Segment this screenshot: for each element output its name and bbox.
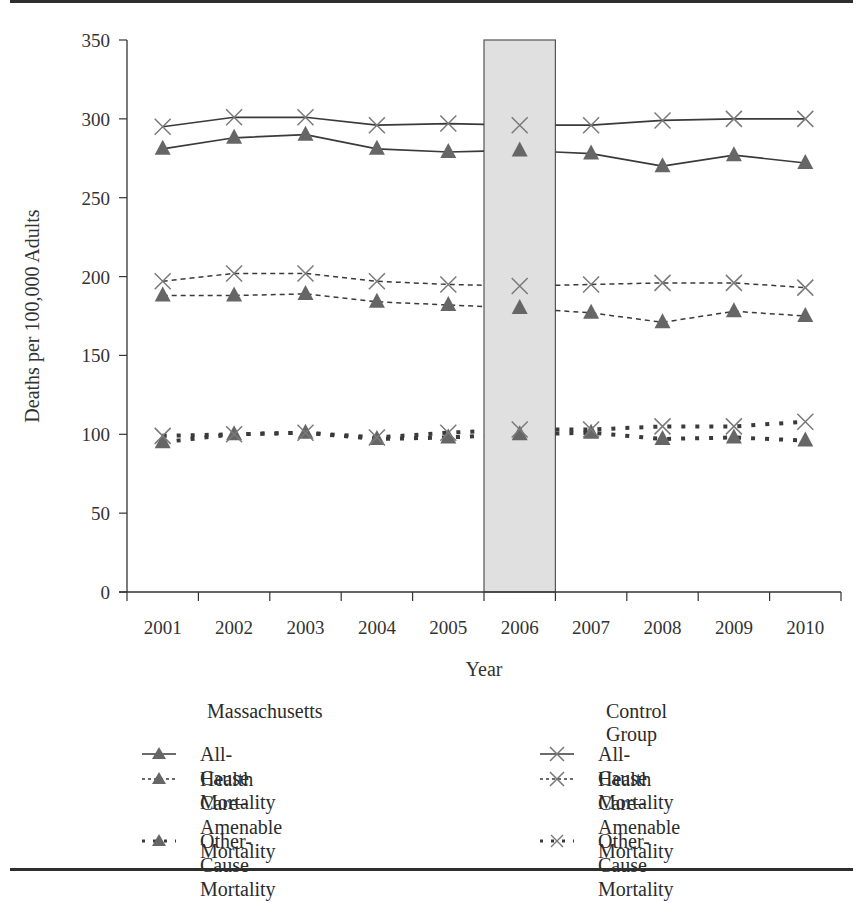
legend-label: Other-Cause Mortality xyxy=(598,829,674,901)
triangle-marker-icon xyxy=(152,747,166,759)
x-tick-label: 2008 xyxy=(644,617,682,638)
x-tick-label: 2005 xyxy=(429,617,467,638)
y-tick-label: 150 xyxy=(82,345,111,366)
legend-item-ma-other-cause: Other-Cause Mortality xyxy=(138,829,276,901)
y-tick-label: 250 xyxy=(82,188,111,209)
legend-swatch-solid-x xyxy=(536,742,598,766)
x-tick-label: 2006 xyxy=(501,617,539,638)
bottom-rule xyxy=(10,868,853,871)
series-line-control-group-dashed-seg0 xyxy=(163,273,484,285)
legend-swatch-solid-triangle xyxy=(138,742,200,766)
point-massachusetts-dashed-2003 xyxy=(298,285,314,300)
point-massachusetts-solid-2002 xyxy=(226,129,242,144)
point-massachusetts-dashed-2005 xyxy=(440,296,456,311)
point-massachusetts-dashed-2002 xyxy=(226,286,242,301)
x-tick-label: 2001 xyxy=(144,617,182,638)
point-massachusetts-dotted-2003 xyxy=(298,424,314,439)
x-axis-title: Year xyxy=(466,658,503,680)
x-tick-label: 2010 xyxy=(786,617,824,638)
point-massachusetts-dashed-2004 xyxy=(369,293,385,308)
triangle-marker-icon xyxy=(152,772,166,784)
point-massachusetts-dotted-2010 xyxy=(797,432,813,447)
x-tick-label: 2007 xyxy=(572,617,610,638)
point-massachusetts-dashed-2009 xyxy=(726,302,742,317)
y-tick-label: 200 xyxy=(82,267,111,288)
legend-group-title-massachusetts: Massachusetts xyxy=(207,700,323,723)
highlight-band-2006 xyxy=(484,40,555,592)
x-tick-label: 2003 xyxy=(287,617,325,638)
point-massachusetts-solid-2007 xyxy=(583,145,599,160)
legend-swatch-dashed-triangle xyxy=(138,767,200,791)
y-tick-label: 350 xyxy=(82,30,111,51)
legend-swatch-dotted-x xyxy=(536,829,598,853)
series-line-massachusetts-dotted-seg0 xyxy=(163,433,484,442)
point-massachusetts-dashed-2010 xyxy=(797,307,813,322)
series-line-control-group-solid-seg0 xyxy=(163,117,484,126)
y-axis-title: Deaths per 100,000 Adults xyxy=(21,209,44,423)
y-tick-label: 300 xyxy=(82,109,111,130)
y-tick-label: 0 xyxy=(101,582,111,603)
point-control-group-dotted-2010 xyxy=(797,414,813,430)
series-line-massachusetts-solid-seg0 xyxy=(163,135,484,152)
y-tick-label: 50 xyxy=(91,503,110,524)
point-massachusetts-solid-2005 xyxy=(440,143,456,158)
x-tick-label: 2009 xyxy=(715,617,753,638)
point-massachusetts-dashed-2008 xyxy=(655,313,671,328)
line-chart: 0501001502002503003502001200220032004200… xyxy=(0,0,860,700)
point-massachusetts-dashed-2007 xyxy=(583,304,599,319)
y-tick-label: 100 xyxy=(82,424,111,445)
point-massachusetts-solid-2003 xyxy=(298,126,314,141)
point-massachusetts-dashed-2001 xyxy=(155,286,171,301)
legend-label: Other-Cause Mortality xyxy=(200,829,276,901)
series-line-control-group-dotted-seg0 xyxy=(163,431,484,437)
legend-group-title-control: Control Group xyxy=(606,700,667,746)
point-massachusetts-solid-2010 xyxy=(797,154,813,169)
legend-swatch-dashed-x xyxy=(536,767,598,791)
legend-item-ctrl-other-cause: Other-Cause Mortality xyxy=(536,829,674,901)
point-massachusetts-solid-2009 xyxy=(726,146,742,161)
legend-swatch-dotted-triangle xyxy=(138,829,200,853)
x-tick-label: 2004 xyxy=(358,617,397,638)
point-massachusetts-dotted-2002 xyxy=(226,425,242,440)
series-line-massachusetts-dashed-seg0 xyxy=(163,294,484,307)
x-tick-label: 2002 xyxy=(215,617,253,638)
